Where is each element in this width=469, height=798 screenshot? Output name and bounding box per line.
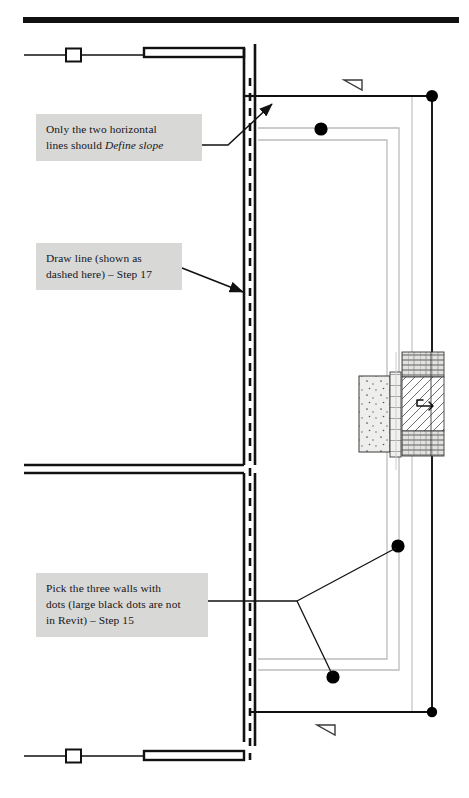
dot-right-wall xyxy=(391,539,404,552)
callout-define-slope-line2-plain: lines should xyxy=(46,139,105,151)
brick-course-bottom xyxy=(402,431,444,456)
leader-draw-line xyxy=(182,268,243,292)
callout-draw-line[interactable]: Draw line (shown as dashed here) – Step … xyxy=(36,243,182,290)
dot-top-wall xyxy=(314,122,327,135)
leader-define-slope xyxy=(202,104,272,145)
callout-define-slope-line2-italic: Define slope xyxy=(105,139,163,151)
callout-draw-line-line1: Draw line (shown as xyxy=(46,252,142,264)
concrete-block xyxy=(359,376,390,452)
leader-pick-walls xyxy=(208,548,396,674)
slope-triangle-top xyxy=(344,80,362,90)
callout-pick-walls-line1: Pick the three walls with xyxy=(46,582,161,594)
document-page: Only the two horizontal lines should Def… xyxy=(0,0,469,798)
dot-bottom-wall xyxy=(326,670,339,683)
slope-triangle-bottom xyxy=(317,725,335,735)
dot-top-right-corner xyxy=(426,90,438,102)
dot-bottom-right-corner xyxy=(427,707,437,717)
callout-pick-walls-line2: dots (large black dots are not xyxy=(46,598,181,610)
brick-course-top xyxy=(402,352,444,377)
masonry-core xyxy=(402,377,444,431)
callout-pick-walls-line3: in Revit) – Step 15 xyxy=(46,614,134,626)
callout-define-slope-line1: Only the two horizontal xyxy=(46,123,157,135)
top-header-rule xyxy=(23,17,459,23)
callout-draw-line-line2: dashed here) – Step 17 xyxy=(46,268,152,280)
callout-pick-walls[interactable]: Pick the three walls with dots (large bl… xyxy=(36,573,208,637)
callout-define-slope[interactable]: Only the two horizontal lines should Def… xyxy=(36,114,202,161)
wall-section-detail xyxy=(359,352,444,470)
